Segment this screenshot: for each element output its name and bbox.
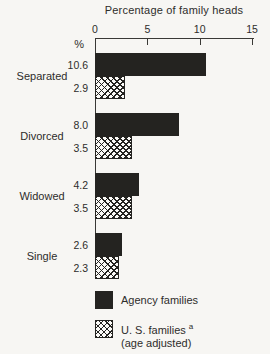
bar-separated-agency-families [95,53,206,76]
bar-chart: Percentage of family heads % 051015 Sepa… [0,0,270,354]
legend-label-agency-families: Agency families [121,294,198,306]
value-label-separated-us: 2.9 [36,76,88,99]
bar-divorced-us-families [95,136,132,159]
bar-widowed-us-families [95,196,132,219]
bar-divorced-agency-families [95,113,179,136]
legend-label-us-families: U. S. families a (age adjusted) [121,320,193,350]
value-label-widowed-agency: 4.2 [36,173,88,196]
bar-separated-us-families [95,76,125,99]
legend-us-line1: U. S. families a [121,320,193,337]
x-tick-label-10: 10 [185,23,215,35]
axis-unit-label: % [60,38,84,50]
bar-single-us-families [95,256,119,279]
legend-swatch-us-families [95,320,113,338]
value-label-divorced-us: 3.5 [36,136,88,159]
value-label-divorced-agency: 8.0 [36,113,88,136]
value-label-single-agency: 2.6 [36,233,88,256]
bar-single-agency-families [95,233,122,256]
value-label-widowed-us: 3.5 [36,196,88,219]
bar-widowed-agency-families [95,173,139,196]
x-tick-label-5: 5 [132,23,162,35]
x-tick-label-15: 15 [237,23,267,35]
value-label-single-us: 2.3 [36,256,88,279]
x-tick-label-0: 0 [80,23,110,35]
value-label-separated-agency: 10.6 [36,53,88,76]
legend-us-line2: (age adjusted) [121,337,193,350]
x-tick-mark-15 [252,39,253,45]
x-axis-line [95,38,254,39]
x-tick-mark-5 [147,39,148,45]
x-tick-mark-10 [200,39,201,45]
legend-swatch-agency-families [95,291,113,309]
legend-us-footnote-marker: a [189,322,193,331]
chart-title: Percentage of family heads [88,4,260,16]
legend-us-main-text: U. S. families [121,324,186,336]
